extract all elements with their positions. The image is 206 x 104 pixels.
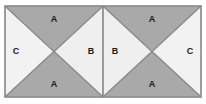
label-a-bottom-left: A [51,79,58,89]
label-b-left: B [88,46,95,56]
label-a-top-right: A [149,14,156,24]
geometric-figure-container: A A C B A A B C [0,0,206,104]
label-c-left: C [13,46,20,56]
label-b-right: B [112,46,119,56]
label-a-bottom-right: A [149,79,156,89]
label-c-right: C [187,46,194,56]
bowtie-tiling-diagram: A A C B A A B C [0,0,206,104]
label-a-top-left: A [51,14,58,24]
